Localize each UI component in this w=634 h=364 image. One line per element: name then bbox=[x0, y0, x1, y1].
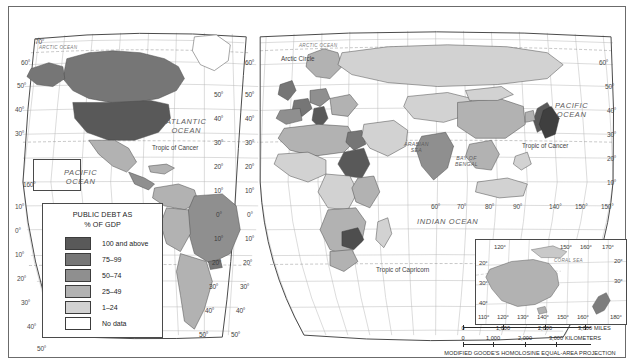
legend-label: No data bbox=[102, 320, 127, 327]
projection-note: MODIFIED GOODE'S HOMOLOSINE EQUAL-AREA P… bbox=[430, 350, 630, 356]
label-arctic-circle: Arctic Circle bbox=[281, 55, 315, 62]
ocean-label-arctic-left: ARCTIC OCEAN bbox=[39, 45, 77, 50]
lat-label-50-south-left: 50° bbox=[37, 345, 46, 352]
legend-row: 75–99 bbox=[43, 251, 162, 267]
scale-line bbox=[463, 327, 591, 328]
ocean-label-arabian-sea-line2: SEA bbox=[411, 147, 422, 153]
lon-label-140: 140° bbox=[549, 203, 562, 210]
seam-lat-40-left: 40° bbox=[214, 115, 223, 122]
scale-tick bbox=[525, 342, 526, 347]
scale-tick bbox=[556, 342, 557, 347]
seam-lat-40s-left: 40° bbox=[205, 307, 214, 314]
country-indonesia bbox=[475, 178, 527, 198]
country-china bbox=[458, 98, 526, 138]
map-page: 70° 60° 50° 40° 30° 10° 0° 10° 20° 30° 4… bbox=[0, 0, 634, 364]
world-map-frame: 70° 60° 50° 40° 30° 10° 0° 10° 20° 30° 4… bbox=[8, 6, 626, 358]
region-west-africa bbox=[274, 152, 326, 182]
legend-items: 100 and above 75–99 50–74 25–49 1–24 bbox=[43, 235, 162, 331]
lat-label-70-left: 70° bbox=[35, 38, 44, 45]
seam-lat-20-right: 20° bbox=[245, 163, 254, 170]
seam-lat-10-left: 10° bbox=[214, 187, 223, 194]
scale-line bbox=[463, 344, 591, 345]
seam-lat-50s-left: 50° bbox=[199, 331, 208, 338]
lat-label-60-left: 60° bbox=[21, 59, 30, 66]
scale-bar-kilometers: 0 1,000 2,000 3,000 KILOMETERS bbox=[455, 335, 618, 349]
label-tropic-of-cancer-right: Tropic of Cancer bbox=[522, 142, 568, 149]
inset-lat-20-left: 20° bbox=[479, 260, 487, 266]
legend-swatch bbox=[65, 285, 91, 298]
legend-title-line2: % OF GDP bbox=[84, 220, 121, 229]
ocean-label-atlantic: ATLANTIC OCEAN bbox=[166, 118, 207, 135]
inset-lat-40-left: 40° bbox=[479, 300, 487, 306]
seam-lat-50-right: 50° bbox=[245, 91, 254, 98]
seam-lat-10s-right: 10° bbox=[245, 235, 254, 242]
region-north-africa bbox=[278, 124, 356, 156]
country-new-zealand bbox=[592, 293, 610, 314]
ocean-label-pacific-right: PACIFIC OCEAN bbox=[555, 102, 588, 119]
legend-swatch bbox=[65, 253, 91, 266]
seam-lat-0-right: 0° bbox=[247, 211, 253, 218]
seam-lat-30-left: 30° bbox=[214, 139, 223, 146]
scale-bars: 0 1,000 2,000 3,000 MILES 0 1,000 2,000 … bbox=[455, 320, 618, 349]
inset-lon-160-top: 160° bbox=[580, 244, 592, 250]
legend-swatch bbox=[65, 317, 91, 330]
scale-tick bbox=[503, 325, 504, 330]
legend-title-line1: PUBLIC DEBT AS bbox=[73, 210, 133, 219]
lat-label-30-left: 30° bbox=[15, 130, 24, 137]
ocean-label-indian: INDIAN OCEAN bbox=[417, 218, 478, 227]
legend-row: 50–74 bbox=[43, 267, 162, 283]
ocean-label-arctic-right: ARCTIC OCEAN bbox=[299, 43, 337, 48]
country-argentina-chile bbox=[176, 254, 212, 330]
region-central-america bbox=[129, 172, 155, 190]
country-brazil bbox=[188, 194, 240, 264]
country-russia bbox=[338, 45, 563, 87]
map-legend: PUBLIC DEBT AS % OF GDP 100 and above 75… bbox=[42, 203, 163, 338]
seam-lat-30s-left: 30° bbox=[209, 283, 218, 290]
scale-tick bbox=[463, 342, 464, 347]
seam-lat-50s-right: 50° bbox=[231, 331, 240, 338]
scale-miles-ticks bbox=[455, 325, 618, 330]
australia-inset-graphic bbox=[476, 240, 626, 324]
legend-label: 100 and above bbox=[102, 240, 148, 247]
lat-label-40-right: 40° bbox=[607, 107, 616, 114]
scale-tick bbox=[545, 325, 546, 330]
ocean-label-bay-of-bengal: BAY OF BENGAL bbox=[455, 156, 478, 168]
legend-row: No data bbox=[43, 315, 162, 331]
seam-lat-40s-right: 40° bbox=[236, 307, 245, 314]
lat-label-40-south-left: 40° bbox=[27, 323, 36, 330]
country-united-kingdom bbox=[278, 81, 296, 101]
lon-label-150: 150° bbox=[575, 203, 588, 210]
country-madagascar bbox=[376, 218, 392, 248]
country-sudan bbox=[338, 148, 370, 178]
legend-label: 25–49 bbox=[102, 288, 121, 295]
country-india bbox=[416, 132, 454, 180]
region-central-europe bbox=[310, 89, 330, 107]
region-scandinavia bbox=[306, 49, 342, 79]
inset-lat-30-right: 30° bbox=[614, 278, 622, 284]
lon-label-90: 90° bbox=[513, 203, 522, 210]
country-spain-portugal bbox=[276, 108, 302, 124]
seam-lat-10-right: 10° bbox=[245, 187, 254, 194]
country-mongolia bbox=[466, 87, 514, 101]
country-peru-bolivia bbox=[161, 208, 191, 252]
legend-label: 50–74 bbox=[102, 272, 121, 279]
seam-lat-20-left: 20° bbox=[214, 163, 223, 170]
scale-tick bbox=[585, 325, 586, 330]
pacific-islands-inset bbox=[33, 159, 81, 191]
country-greenland bbox=[192, 35, 230, 71]
lat-label-50-right: 50° bbox=[605, 83, 614, 90]
legend-swatch bbox=[65, 301, 91, 314]
label-tropic-of-cancer-left: Tropic of Cancer bbox=[152, 144, 198, 151]
inset-lon-170-top: 170° bbox=[602, 244, 614, 250]
country-canada bbox=[63, 51, 185, 103]
ocean-label-pacific-right-line2: OCEAN bbox=[557, 110, 587, 119]
seam-lat-20s-left: 20° bbox=[212, 259, 221, 266]
inset-lon-120-top: 120° bbox=[494, 244, 506, 250]
lon-label-70: 70° bbox=[457, 203, 466, 210]
inset-lat-30-left: 30° bbox=[479, 280, 487, 286]
scale-tick bbox=[493, 342, 494, 347]
seam-lat-0-left: 0° bbox=[216, 211, 222, 218]
seam-lat-40-right: 40° bbox=[245, 115, 254, 122]
australia-oceania-inset: CORAL SEA 120° 150° 160° 170° 20° 30° 40… bbox=[475, 239, 627, 325]
lat-label-20-south-left: 20° bbox=[17, 275, 26, 282]
